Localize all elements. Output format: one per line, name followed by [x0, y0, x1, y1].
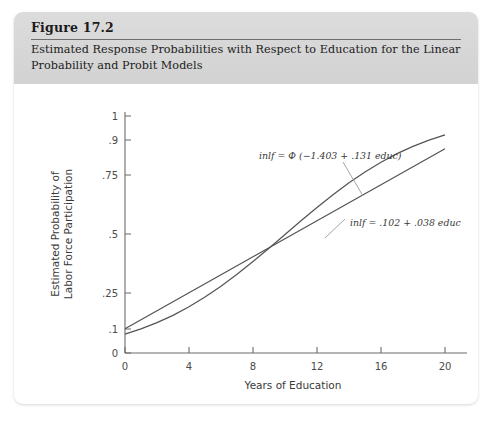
xtick-label-20: 20 — [439, 361, 452, 372]
ytick-label-01: .1 — [108, 324, 118, 335]
xtick-label-16: 16 — [375, 361, 388, 372]
figure-header-band: Figure 17.2 Estimated Response Probabili… — [14, 12, 478, 84]
y-axis-ticks — [125, 116, 131, 353]
figure-number: Figure 17.2 — [31, 20, 114, 35]
ytick-label-1: 1 — [112, 111, 118, 122]
plot-panel: 1 .9 .75 .5 .25 .1 0 0 4 8 12 16 20 — [25, 86, 467, 396]
probit-leader-line — [343, 162, 363, 196]
x-axis-title: Years of Education — [244, 379, 342, 391]
ytick-label-09: .9 — [108, 135, 118, 146]
xtick-label-12: 12 — [311, 361, 324, 372]
x-axis-ticks — [125, 347, 445, 353]
linear-probability-curve — [125, 149, 445, 329]
ytick-label-025: .25 — [102, 288, 118, 299]
ytick-label-0: 0 — [112, 348, 118, 359]
header-divider — [31, 39, 461, 40]
figure-card: Figure 17.2 Estimated Response Probabili… — [14, 12, 478, 404]
y-axis-title-line2: Labor Force Participation — [62, 169, 74, 299]
xtick-label-0: 0 — [122, 361, 128, 372]
ytick-label-05: .5 — [108, 229, 118, 240]
linear-equation-label: inlf = .102 + .038 educ — [350, 217, 461, 228]
probit-curve — [125, 135, 445, 334]
xtick-label-8: 8 — [250, 361, 256, 372]
probit-equation-label: inlf = Φ (−1.403 + .131 educ) — [259, 150, 402, 161]
xtick-label-4: 4 — [186, 361, 192, 372]
figure-caption: Estimated Response Probabilities with Re… — [31, 42, 463, 73]
linear-leader-line — [325, 219, 345, 238]
response-probability-chart: 1 .9 .75 .5 .25 .1 0 0 4 8 12 16 20 — [25, 86, 467, 396]
y-axis-title-line1: Estimated Probability of — [49, 171, 61, 297]
ytick-label-075: .75 — [102, 170, 118, 181]
